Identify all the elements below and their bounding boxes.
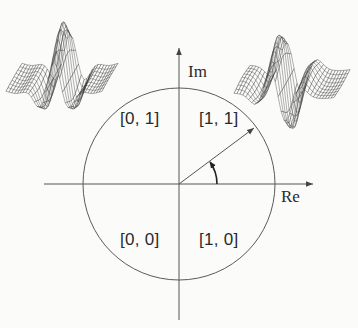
quadrant-label-1-1: [1, 1] [199,110,239,128]
imaginary-axis-label: Im [188,63,207,81]
complex-plane-svg [0,0,358,328]
quadrant-label-0-0: [0, 0] [120,231,160,249]
phase-quadrant-diagram: Im Re [0, 1] [1, 1] [0, 0] [1, 0] [0,0,358,328]
phase-angle-arc [210,162,217,184]
real-axis-label: Re [281,188,300,206]
real-part-surface [6,22,118,109]
quadrant-label-1-0: [1, 0] [199,231,239,249]
imaginary-part-surface [234,35,350,128]
quadrant-label-0-1: [0, 1] [120,110,160,128]
